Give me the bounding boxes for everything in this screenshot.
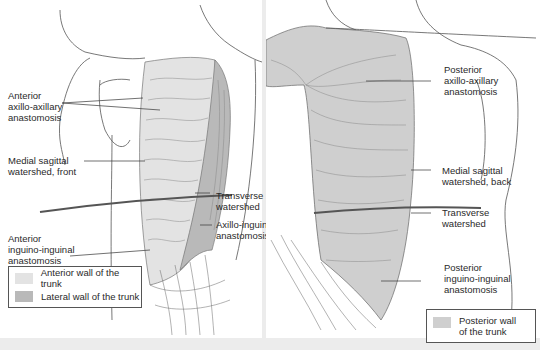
label-line: Medial sagittal — [442, 165, 511, 176]
label-line: Anterior — [8, 90, 62, 101]
label-line: Anterior — [8, 233, 75, 244]
label-line: watershed — [216, 201, 263, 212]
label-line: inguino-inguinal — [8, 244, 75, 255]
label-line: axillo-axillary — [8, 101, 62, 112]
label-line: anastomosis — [444, 284, 511, 295]
label-medial-sagittal-back: Medial sagittal watershed, back — [442, 165, 511, 187]
posterior-wall-swatch — [433, 317, 451, 328]
label-line: inguino-inguinal — [444, 273, 511, 284]
label-line: anastomosis — [8, 255, 75, 266]
label-line: watershed — [442, 218, 489, 229]
label-line: axillo-axillary — [444, 75, 498, 86]
anterior-view-panel: Anterior axillo-axillary anastomosis Med… — [0, 0, 262, 338]
legend-item-lateral-wall: Lateral wall of the trunk — [9, 287, 141, 305]
label-anterior-axillo-axillary: Anterior axillo-axillary anastomosis — [8, 90, 62, 123]
label-posterior-inguino-inguinal: Posterior inguino-inguinal anastomosis — [444, 262, 511, 295]
legend-label: Anterior wall of the trunk — [41, 267, 141, 289]
legend-label: Lateral wall of the trunk — [41, 291, 139, 302]
anterior-wall-swatch — [15, 273, 33, 284]
label-anterior-inguino-inguinal: Anterior inguino-inguinal anastomosis — [8, 233, 75, 266]
legend-posterior-view: Posterior wall of the trunk — [426, 309, 536, 343]
label-line: watershed, front — [8, 166, 76, 177]
legend-item-anterior-wall: Anterior wall of the trunk — [9, 269, 141, 287]
posterior-view-panel: Posterior axillo-axillary anastomosis Me… — [266, 0, 540, 338]
label-transverse-watershed: Transverse watershed — [216, 190, 263, 212]
label-line: anastomosis — [444, 86, 498, 97]
label-medial-sagittal-front: Medial sagittal watershed, front — [8, 155, 76, 177]
legend-anterior-view: Anterior wall of the trunk Lateral wall … — [8, 266, 142, 308]
label-transverse-watershed-back: Transverse watershed — [442, 207, 489, 229]
label-line: anastomosis — [8, 112, 62, 123]
legend-label: Posterior wall of the trunk — [459, 315, 516, 337]
legend-label-line: of the trunk — [459, 326, 516, 337]
lateral-wall-swatch — [15, 291, 33, 302]
label-line: Transverse — [216, 190, 263, 201]
legend-label-line: Posterior wall — [459, 315, 516, 326]
label-line: watershed, back — [442, 176, 511, 187]
label-line: Posterior — [444, 262, 511, 273]
label-posterior-axillo-axillary: Posterior axillo-axillary anastomosis — [444, 64, 498, 97]
label-line: Medial sagittal — [8, 155, 76, 166]
label-line: Transverse — [442, 207, 489, 218]
label-line: Posterior — [444, 64, 498, 75]
